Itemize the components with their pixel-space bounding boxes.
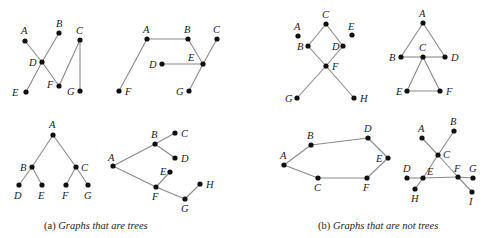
vertex-label: D	[148, 59, 157, 70]
edge-F-G	[297, 66, 326, 98]
graph-figure: ABCDEFGABCDEFGABCDEFGABCDEFGHABCDEFGHABC…	[0, 0, 490, 238]
vertex-G	[294, 95, 299, 100]
vertex-C	[323, 21, 328, 26]
vertex-E	[404, 88, 409, 93]
vertex-H	[412, 186, 417, 191]
vertex-A	[144, 36, 149, 41]
vertex-label: C	[213, 24, 221, 35]
edge-G-H	[185, 184, 200, 199]
vertex-C	[214, 36, 219, 41]
vertex-E	[385, 155, 390, 160]
vertex-label: E	[375, 153, 383, 164]
vertex-label: B	[151, 129, 158, 140]
vertex-G	[182, 196, 187, 201]
vertex-D	[159, 61, 164, 66]
vertex-label: D	[331, 41, 340, 52]
vertex-label: C	[443, 149, 451, 160]
graph-nontree-3: ABCDEF	[279, 123, 391, 193]
vertex-F	[153, 184, 158, 189]
edge-C-F	[66, 167, 76, 185]
vertex-label: B	[184, 24, 191, 35]
vertex-label: B	[450, 116, 457, 127]
vertex-label: F	[445, 86, 453, 97]
vertex-label: C	[81, 162, 89, 173]
vertex-label: A	[48, 119, 56, 130]
vertex-label: F	[151, 191, 159, 202]
edge-F-I	[458, 177, 472, 192]
vertex-C	[435, 152, 440, 157]
vertex-A	[22, 38, 27, 43]
vertex-label: G	[176, 86, 184, 97]
vertex-D	[442, 54, 447, 59]
vertex-label: E	[426, 166, 434, 177]
edge-B-C	[308, 24, 326, 46]
vertex-label: A	[142, 24, 150, 35]
vertex-A	[110, 163, 115, 168]
vertex-E	[420, 175, 425, 180]
vertex-E	[23, 89, 28, 94]
vertex-B	[56, 30, 61, 35]
vertex-label: E	[11, 87, 19, 98]
vertex-label: F	[124, 86, 132, 97]
vertex-label: H	[205, 179, 215, 190]
vertex-label: A	[107, 152, 115, 163]
vertex-G	[85, 182, 90, 187]
vertex-H	[351, 95, 356, 100]
vertex-label: D	[28, 57, 37, 68]
vertex-B	[308, 142, 313, 147]
vertex-I	[469, 189, 474, 194]
vertex-D	[340, 43, 345, 48]
vertex-F	[455, 174, 460, 179]
vertex-label: A	[293, 21, 301, 32]
vertex-label: D	[402, 163, 411, 174]
vertex-label: D	[180, 153, 189, 164]
vertex-C	[315, 175, 320, 180]
edge-C-E	[407, 57, 423, 91]
caption-trees: (a) Graphs that are trees	[44, 220, 148, 231]
vertex-E	[200, 61, 205, 66]
edge-A-C	[53, 135, 76, 167]
vertex-label: C	[322, 9, 330, 20]
vertex-label: E	[159, 166, 167, 177]
vertex-B	[398, 54, 403, 59]
vertex-E	[349, 32, 354, 37]
edge-B-D	[42, 33, 59, 62]
vertex-D	[404, 175, 409, 180]
vertex-A	[420, 20, 425, 25]
edge-C-E	[203, 39, 217, 64]
vertex-label: F	[362, 182, 370, 193]
vertex-F	[323, 63, 328, 68]
vertex-label: G	[285, 93, 293, 104]
vertex-F	[63, 182, 68, 187]
vertex-B	[29, 164, 34, 169]
vertex-label: G	[84, 190, 92, 201]
vertex-label: C	[314, 182, 322, 193]
vertex-label: B	[20, 162, 27, 173]
vertex-label: F	[331, 61, 339, 72]
edge-A-B	[32, 135, 53, 167]
vertex-D	[365, 135, 370, 140]
vertex-F	[364, 175, 369, 180]
caption-not-trees-text: Graphs that are not trees	[333, 220, 438, 231]
vertex-E	[167, 169, 172, 174]
vertex-C	[73, 164, 78, 169]
vertex-label: E	[395, 86, 403, 97]
graph-nontree-2: ABCDEF	[389, 8, 459, 97]
vertex-F	[56, 83, 61, 88]
vertex-label: E	[347, 21, 355, 32]
graph-nontree-4: ABCDEFGHI	[402, 116, 477, 207]
vertex-label: H	[410, 193, 420, 204]
vertex-B	[152, 141, 157, 146]
graph-tree-3: ABCDEFG	[13, 119, 92, 201]
edge-A-F	[119, 39, 147, 91]
edge-B-D	[155, 144, 175, 158]
vertex-label: H	[359, 93, 369, 104]
edge-C-A	[284, 165, 318, 178]
vertex-H	[197, 181, 202, 186]
vertex-label: F	[61, 190, 69, 201]
vertex-G	[470, 175, 475, 180]
vertex-D	[16, 182, 21, 187]
caption-not-trees: (b) Graphs that are not trees	[318, 220, 438, 231]
vertex-label: B	[56, 18, 63, 29]
vertex-label: B	[307, 130, 314, 141]
